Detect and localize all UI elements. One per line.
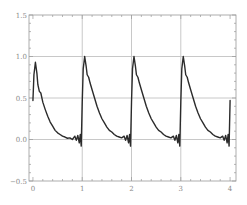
y-tick-label: −0.5 [10, 178, 27, 186]
x-tick-label: 2 [129, 185, 133, 193]
y-tick-label: 1.0 [16, 53, 27, 61]
x-tick-label: 0 [31, 185, 35, 193]
line-chart: −0.50.00.51.01.5 01234 [0, 0, 247, 205]
y-tick-label: 0.0 [16, 136, 27, 144]
x-tick-label: 4 [228, 185, 233, 193]
chart-background [0, 0, 247, 205]
y-tick-label: 1.5 [16, 12, 27, 20]
x-tick-label: 1 [80, 185, 84, 193]
y-tick-label: 0.5 [16, 95, 27, 103]
x-tick-label: 3 [179, 185, 183, 193]
